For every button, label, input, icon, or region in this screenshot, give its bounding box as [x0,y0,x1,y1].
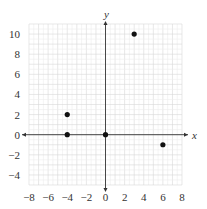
x-tick-label: 2 [122,191,128,203]
y-tick-label: 6 [15,68,21,80]
data-point [160,142,165,147]
x-tick-label: −4 [61,191,73,203]
x-arrow-left-icon [22,133,26,137]
x-tick-label: −8 [23,191,35,203]
y-axis-label: y [103,8,109,20]
y-tick-label: 4 [15,88,21,100]
data-point [65,132,70,137]
data-point [132,31,137,36]
x-tick-label: −6 [42,191,54,203]
y-tick-label: 0 [15,129,21,141]
y-tick-label: 2 [15,109,21,121]
y-tick-label: −2 [8,149,20,161]
y-arrow-up-icon [104,21,108,25]
x-tick-label: −2 [81,191,93,203]
scatter-chart: −8−6−4−202468−4−20246810 x y [0,0,207,209]
y-tick-label: 10 [9,28,21,40]
y-tick-label: −4 [8,169,20,181]
data-point [65,112,70,117]
x-axis-label: x [191,129,197,141]
data-point [103,132,108,137]
x-tick-label: 6 [160,191,166,203]
y-tick-label: 8 [15,48,21,60]
x-tick-label: 0 [103,191,109,203]
x-arrow-right-icon [184,133,188,137]
x-tick-label: 4 [141,191,147,203]
x-tick-label: 8 [179,191,185,203]
